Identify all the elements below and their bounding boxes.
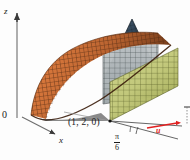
z-axis-label: z [4,7,8,16]
angle-denominator: 6 [114,143,120,152]
origin-label: 0 [2,110,7,120]
direction-vector-label: u [156,127,160,135]
surface-plot-figure [0,0,190,160]
x-axis-label: x [59,136,63,145]
angle-fraction-label: π 6 [114,132,120,152]
angle-numerator: π [114,132,120,141]
point-marker-1-2-0 [108,119,111,122]
point-label: (1, 2, 0) [68,118,100,128]
